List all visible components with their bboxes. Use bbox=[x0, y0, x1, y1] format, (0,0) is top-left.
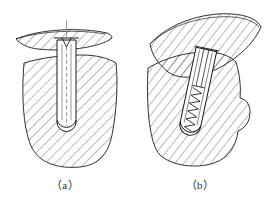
caption-subfigure-a: （a） bbox=[30, 180, 100, 191]
engineering-drawing-canvas bbox=[0, 0, 270, 205]
bolt-fastener-a bbox=[54, 38, 79, 132]
caption-subfigure-b: （b） bbox=[165, 180, 235, 191]
figure-sheet: （a） （b） bbox=[0, 0, 270, 205]
